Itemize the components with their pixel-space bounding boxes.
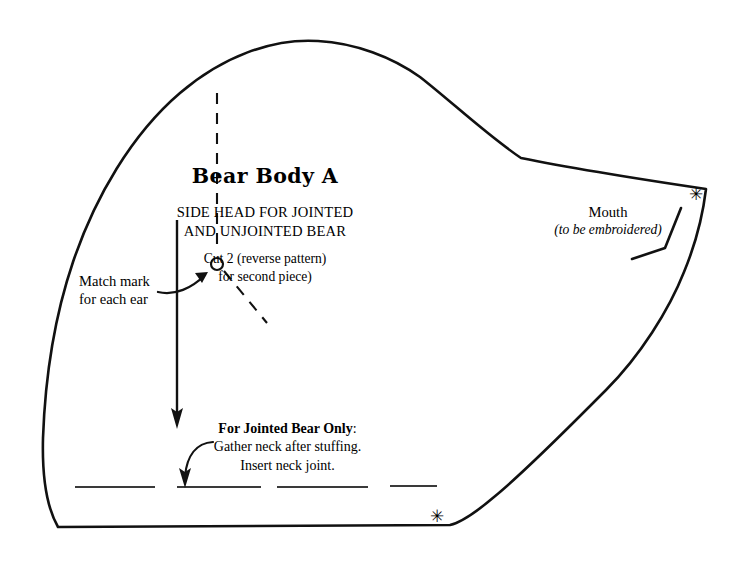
page-title: Bear Body A <box>0 164 530 188</box>
title-block: Bear Body A <box>0 164 530 188</box>
mouth-label: Mouth (to be embroidered) <box>528 203 688 239</box>
jointed-heading: For Jointed Bear Only <box>218 421 352 436</box>
jointed-bear-instructions: For Jointed Bear Only: Gather neck after… <box>180 420 395 475</box>
neck-match-asterisk-icon: ✳ <box>430 508 444 525</box>
pattern-subtitle: SIDE HEAD FOR JOINTED AND UNJOINTED BEAR <box>0 203 530 240</box>
jointed-line-1: Gather neck after stuffing. <box>180 438 395 456</box>
jointed-line-2: Insert neck joint. <box>180 457 395 475</box>
snout-match-asterisk-icon: ✳ <box>689 186 703 203</box>
pattern-sheet: ✳ ✳ Bear Body A SIDE HEAD FOR JOINTED AN… <box>0 0 750 574</box>
match-mark-line-1: Match mark <box>79 272 150 290</box>
mouth-label-text: Mouth <box>528 203 688 221</box>
subtitle-line-1: SIDE HEAD FOR JOINTED <box>0 203 530 222</box>
match-mark-label: Match mark for each ear <box>79 272 150 309</box>
jointed-heading-row: For Jointed Bear Only: <box>180 420 395 438</box>
match-mark-line-2: for each ear <box>79 290 150 308</box>
cut-line-1: Cut 2 (reverse pattern) <box>0 250 530 268</box>
subtitle-line-2: AND UNJOINTED BEAR <box>0 222 530 241</box>
mouth-note-text: (to be embroidered) <box>528 221 688 238</box>
jointed-heading-colon: : <box>353 421 357 436</box>
